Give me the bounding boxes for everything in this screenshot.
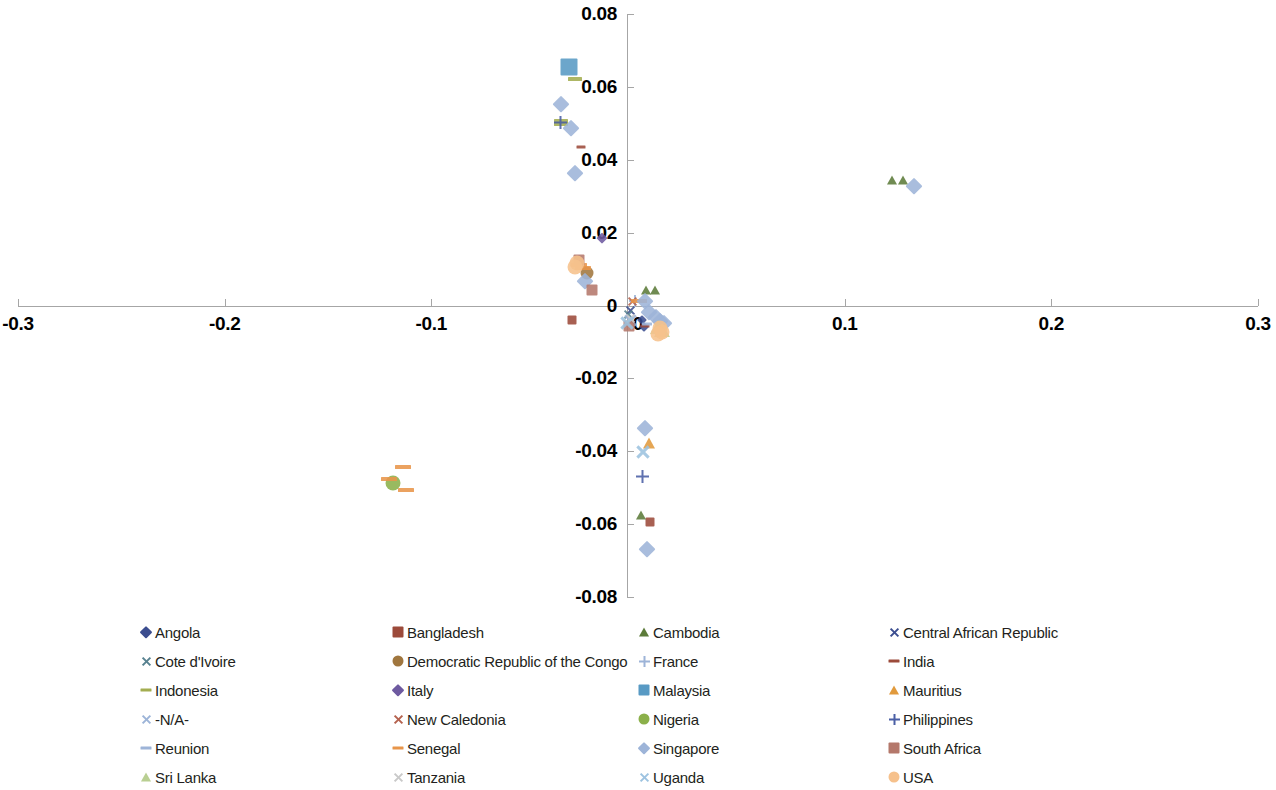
data-point: [636, 511, 646, 520]
data-point: [571, 263, 587, 267]
y-axis-tick-label: -0.04: [575, 440, 617, 462]
legend-item[interactable]: Cote d'Ivoire: [138, 652, 236, 670]
legend-marker-x-icon: [390, 711, 406, 727]
x-axis-tick-label: 0.3: [1245, 313, 1271, 335]
marker-x: [639, 772, 650, 783]
legend-item[interactable]: Angola: [138, 623, 200, 641]
data-point: [656, 315, 673, 332]
y-axis-tick: [627, 160, 634, 161]
marker-square: [889, 743, 900, 754]
marker-dash: [889, 660, 900, 663]
legend-item[interactable]: Malaysia: [636, 681, 710, 699]
legend-marker-triangle-icon: [636, 624, 652, 640]
marker-x: [393, 772, 404, 783]
x-axis-tick-label: 0: [633, 313, 643, 335]
legend-marker-dash-icon: [886, 653, 902, 669]
legend-item[interactable]: -N/A-: [138, 710, 189, 728]
legend-item[interactable]: South Africa: [886, 739, 981, 757]
data-point: [654, 323, 670, 337]
legend-item[interactable]: USA: [886, 768, 933, 786]
data-point: [651, 313, 668, 330]
legend-item[interactable]: India: [886, 652, 934, 670]
legend-marker-x-icon: [636, 769, 652, 785]
legend-item[interactable]: Nigeria: [636, 710, 699, 728]
legend-item-label: Mauritius: [903, 682, 962, 699]
x-axis-tick: [845, 299, 846, 306]
y-axis-line: [627, 14, 628, 597]
x-axis-tick-label: 0.1: [832, 313, 858, 335]
legend-item[interactable]: Democratic Republic of the Congo: [390, 652, 627, 670]
legend-item-label: Malaysia: [653, 682, 710, 699]
legend-item[interactable]: Central African Republic: [886, 623, 1058, 641]
data-point: [398, 488, 414, 492]
data-point: [563, 120, 580, 137]
legend-item-label: Cambodia: [653, 624, 719, 641]
legend-item-label: USA: [903, 769, 933, 786]
legend-item[interactable]: Tanzania: [390, 768, 465, 786]
legend-item-label: Senegal: [407, 740, 460, 757]
legend-marker-circle-icon: [886, 769, 902, 785]
y-axis-tick: [627, 597, 634, 598]
legend-item[interactable]: Bangladesh: [390, 623, 484, 641]
data-point: [560, 58, 577, 75]
legend-item[interactable]: New Caledonia: [390, 710, 505, 728]
legend-item[interactable]: Philippines: [886, 710, 973, 728]
x-axis-tick: [18, 299, 19, 306]
legend-marker-square-icon: [390, 624, 406, 640]
legend-item-label: Italy: [407, 682, 433, 699]
marker-circle: [639, 714, 650, 725]
y-axis-tick: [627, 233, 634, 234]
marker-circle: [393, 656, 404, 667]
marker-diamond: [638, 742, 650, 754]
legend-item-label: Tanzania: [407, 769, 465, 786]
marker-triangle: [141, 773, 151, 782]
y-axis-tick-label: 0: [607, 295, 617, 317]
data-point: [381, 477, 397, 481]
data-point: [637, 419, 654, 436]
data-point: [631, 299, 647, 303]
y-axis-tick-label: -0.02: [575, 367, 617, 389]
data-point: [654, 324, 669, 339]
marker-x: [141, 656, 152, 667]
data-point: [636, 470, 649, 483]
x-axis-tick: [225, 299, 226, 306]
data-point: [898, 175, 908, 184]
legend-marker-dash-icon: [138, 740, 154, 756]
legend-item[interactable]: Sri Lanka: [138, 768, 216, 786]
x-axis-line: [18, 306, 1258, 307]
x-axis-tick: [1051, 299, 1052, 306]
legend-item[interactable]: Singapore: [636, 739, 719, 757]
data-point: [650, 285, 660, 294]
legend-item[interactable]: Mauritius: [886, 681, 962, 699]
marker-triangle: [639, 628, 649, 637]
x-axis-tick: [431, 299, 432, 306]
legend-item[interactable]: Reunion: [138, 739, 209, 757]
marker-dash: [141, 747, 152, 750]
data-point: [395, 465, 411, 469]
marker-x: [393, 714, 404, 725]
legend-item[interactable]: France: [636, 652, 698, 670]
x-axis-tick: [1258, 299, 1259, 306]
legend-marker-diamond-icon: [138, 624, 154, 640]
y-axis-tick: [627, 451, 634, 452]
marker-plus: [889, 714, 900, 725]
legend-item-label: -N/A-: [155, 711, 189, 728]
y-axis-tick-label: 0.04: [581, 149, 617, 171]
data-point: [635, 444, 651, 460]
legend-item[interactable]: Senegal: [390, 739, 460, 757]
legend-item[interactable]: Italy: [390, 681, 433, 699]
data-point: [581, 267, 594, 280]
legend-item-label: Central African Republic: [903, 624, 1058, 641]
legend-item[interactable]: Cambodia: [636, 623, 719, 641]
legend-item-label: Democratic Republic of the Congo: [407, 653, 627, 670]
legend-marker-square-icon: [636, 682, 652, 698]
legend-item[interactable]: Indonesia: [138, 681, 218, 699]
data-point: [650, 320, 666, 334]
legend-marker-diamond-icon: [636, 740, 652, 756]
legend-item-label: Sri Lanka: [155, 769, 216, 786]
legend-item-label: France: [653, 653, 698, 670]
data-point: [567, 260, 582, 275]
legend-marker-dash-icon: [390, 740, 406, 756]
legend-item-label: Bangladesh: [407, 624, 484, 641]
legend-item[interactable]: Uganda: [636, 768, 704, 786]
